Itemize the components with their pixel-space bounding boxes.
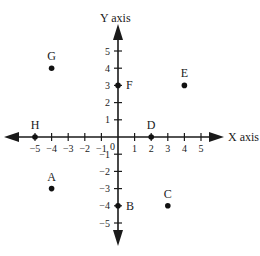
point-e: E (181, 66, 188, 88)
y-tick-label: 3 (105, 80, 110, 91)
coordinate-plane: X axis Y axis 0 −5−4−3−2−112345 54321−1−… (0, 0, 260, 256)
y-tick-label: −5 (99, 218, 110, 229)
y-axis-down-arrow-icon (113, 230, 123, 246)
point-g: G (47, 49, 56, 71)
x-tick-label: −2 (79, 143, 90, 154)
point-marker-icon (49, 186, 55, 192)
y-tick-label: −4 (99, 200, 110, 211)
x-axis-left-arrow-icon (4, 132, 19, 142)
x-tick-label: 1 (132, 143, 137, 154)
point-label: D (147, 118, 156, 132)
point-marker-icon (115, 203, 121, 209)
y-tick-label: −3 (99, 183, 110, 194)
point-marker-icon (32, 134, 38, 140)
x-tick-label: −4 (46, 143, 57, 154)
point-c: C (164, 187, 172, 209)
y-tick-label: 4 (105, 63, 110, 74)
point-label: A (47, 170, 56, 184)
x-tick-label: 4 (182, 143, 187, 154)
x-axis-right-arrow-icon (209, 132, 224, 142)
point-label: H (31, 118, 40, 132)
point-marker-icon (148, 134, 154, 140)
x-tick-label: −3 (63, 143, 74, 154)
x-tick-label: 3 (165, 143, 170, 154)
y-axis-up-arrow-icon (113, 24, 123, 40)
point-marker-icon (165, 203, 171, 209)
y-tick-label: 5 (105, 46, 110, 57)
point-label: B (126, 199, 134, 213)
x-tick-label: −5 (30, 143, 41, 154)
point-marker-icon (182, 83, 188, 89)
y-tick-label: 1 (105, 114, 110, 125)
point-label: F (126, 78, 133, 92)
point-label: E (181, 66, 188, 80)
y-tick-label: −1 (99, 149, 110, 160)
x-ticks: −5−4−3−2−112345 (30, 133, 204, 154)
point-marker-icon (49, 65, 55, 71)
y-tick-label: 2 (105, 97, 110, 108)
point-a: A (47, 170, 56, 192)
x-axis-title: X axis (228, 130, 259, 144)
point-label: C (164, 187, 172, 201)
x-tick-label: 2 (149, 143, 154, 154)
point-marker-icon (115, 83, 121, 89)
x-tick-label: 5 (199, 143, 204, 154)
y-tick-label: −2 (99, 166, 110, 177)
y-axis-title: Y axis (100, 11, 131, 25)
origin-label: 0 (110, 141, 115, 152)
point-label: G (47, 49, 56, 63)
